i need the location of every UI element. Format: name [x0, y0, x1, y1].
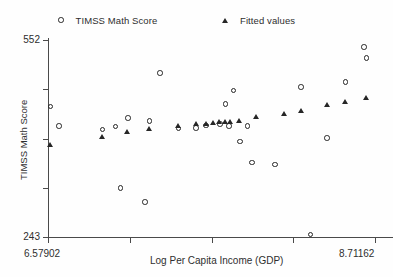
triangle-marker-icon: [363, 95, 369, 100]
circle-marker-icon: [249, 160, 255, 166]
circle-marker-icon: [231, 88, 237, 94]
circle-marker-icon: [298, 84, 304, 90]
plot-data-area: [0, 0, 393, 277]
triangle-marker-icon: [99, 134, 105, 139]
circle-marker-icon: [226, 123, 232, 129]
circle-marker-icon: [223, 101, 229, 107]
triangle-marker-icon: [298, 108, 304, 113]
triangle-marker-icon: [324, 102, 330, 107]
circle-marker-icon: [125, 115, 131, 121]
circle-marker-icon: [118, 185, 124, 191]
triangle-marker-icon: [175, 123, 181, 128]
triangle-marker-icon: [253, 114, 259, 119]
circle-marker-icon: [56, 123, 62, 129]
triangle-marker-icon: [193, 121, 199, 126]
triangle-marker-icon: [203, 121, 209, 126]
triangle-marker-icon: [342, 99, 348, 104]
circle-marker-icon: [237, 139, 243, 145]
triangle-marker-icon: [210, 120, 216, 125]
triangle-marker-icon: [227, 119, 233, 124]
circle-marker-icon: [324, 135, 330, 141]
triangle-marker-icon: [47, 142, 53, 147]
circle-marker-icon: [361, 44, 367, 50]
circle-marker-icon: [113, 124, 119, 130]
circle-marker-icon: [308, 232, 314, 238]
circle-marker-icon: [147, 118, 153, 124]
triangle-marker-icon: [124, 129, 130, 134]
circle-marker-icon: [364, 55, 370, 61]
circle-marker-icon: [272, 162, 278, 168]
triangle-marker-icon: [236, 118, 242, 123]
scatter-plot-figure: TIMSS Math Score Fitted values 552 243 6…: [0, 0, 393, 277]
circle-marker-icon: [100, 127, 106, 133]
circle-marker-icon: [245, 123, 251, 129]
circle-marker-icon: [343, 79, 349, 85]
triangle-marker-icon: [281, 111, 287, 116]
circle-marker-icon: [142, 199, 148, 205]
circle-marker-icon: [157, 70, 163, 76]
triangle-marker-icon: [146, 126, 152, 131]
circle-marker-icon: [48, 104, 54, 110]
